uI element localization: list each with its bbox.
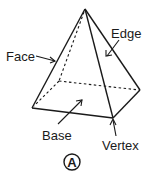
edge-apex-left [32,9,85,108]
hidden-edge-base-back-right [59,81,139,90]
label-edge: Edge [111,26,141,41]
edge-arrow [107,40,119,56]
edge-base-front-right [113,90,140,118]
hidden-edge-apex-back [59,12,84,81]
leader-arrows [36,40,119,136]
choice-marker-letter: A [67,155,77,170]
label-vertex: Vertex [102,138,139,153]
pyramid-diagram: Face Edge Base Vertex A [0,0,153,180]
hidden-edge-base-back-left [34,81,59,106]
label-face: Face [6,49,35,64]
edge-apex-front [85,9,113,118]
label-base: Base [42,128,72,143]
